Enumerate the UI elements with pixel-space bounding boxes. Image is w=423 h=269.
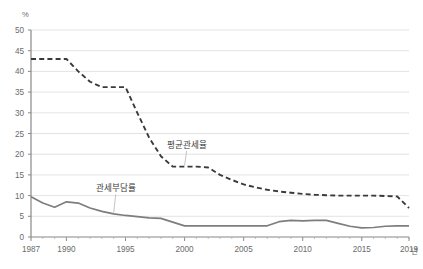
tariff-rate-chart: 05101520253035404550 1987199019952000200…: [0, 0, 423, 269]
y-tick-label: 25: [15, 130, 25, 139]
y-tick-label: 35: [15, 88, 25, 97]
x-tick-label: 2005: [235, 245, 254, 254]
y-tick-label: 30: [15, 109, 25, 118]
y-tick-label: 15: [15, 171, 25, 180]
y-tick-label: 0: [19, 233, 24, 242]
y-tick-label: 45: [15, 47, 25, 56]
series-annotation-label: 관세부담률: [96, 182, 136, 193]
y-tick-label: 5: [19, 212, 24, 221]
y-axis-unit-label: %: [22, 10, 29, 19]
x-tick-label: 1990: [57, 245, 76, 254]
y-tick-label: 10: [15, 192, 25, 201]
x-tick-label: 2015: [353, 245, 372, 254]
x-axis-unit-label: 년: [411, 246, 418, 256]
chart-canvas: 05101520253035404550 1987199019952000200…: [0, 0, 423, 269]
series-annotation-label: 평균관세율: [167, 140, 207, 150]
x-tick-label: 1995: [116, 245, 135, 254]
x-tick-label: 1987: [22, 245, 41, 254]
y-tick-label: 50: [15, 26, 25, 35]
y-tick-label: 40: [15, 67, 25, 76]
y-tick-label: 20: [15, 150, 25, 159]
chart-background: [0, 0, 423, 269]
x-tick-label: 2000: [175, 245, 194, 254]
x-tick-label: 2010: [294, 245, 313, 254]
